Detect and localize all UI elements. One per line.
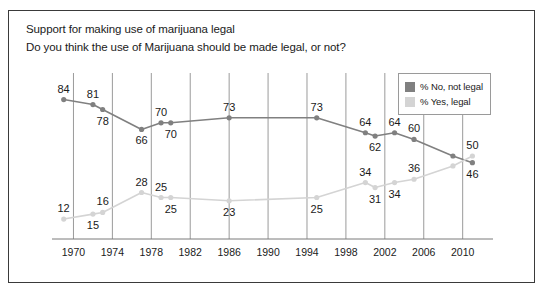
value-label-0-4: 70 [155,106,167,118]
value-label-1-9: 31 [369,193,381,205]
data-point-0-5 [168,120,173,125]
x-tick-label-2006: 2006 [412,246,436,258]
data-point-1-2 [100,210,105,215]
data-point-1-3 [139,190,144,195]
data-point-1-12 [450,163,455,168]
value-label-1-13: 50 [466,139,478,151]
value-label-1-11: 36 [408,162,420,174]
value-label-1-3: 28 [135,176,147,188]
x-tick-label-1986: 1986 [217,246,241,258]
value-label-0-6: 73 [223,101,235,113]
value-label-0-3: 66 [135,134,147,146]
legend-swatch-yes-icon [405,97,415,107]
value-label-0-9: 62 [369,141,381,153]
data-point-0-13 [470,160,475,165]
data-point-1-5 [168,195,173,200]
value-label-0-10: 64 [388,116,400,128]
value-label-1-7: 25 [311,203,323,215]
chart-figure: Support for making use of marijuana lega… [8,10,535,283]
data-point-0-1 [90,102,95,107]
value-label-0-13: 46 [466,168,478,180]
data-point-0-12 [450,153,455,158]
data-point-0-6 [227,115,232,120]
value-label-0-8: 64 [359,116,371,128]
data-point-0-4 [158,120,163,125]
data-point-1-6 [227,198,232,203]
value-label-1-10: 34 [388,188,400,200]
data-point-0-2 [100,107,105,112]
value-label-1-1: 15 [87,219,99,231]
value-label-0-2: 78 [97,115,109,127]
line-chart-plot: 8481786670707373646264604612151628252523… [9,11,536,284]
value-label-1-0: 12 [57,202,69,214]
data-point-1-13 [470,153,475,158]
legend-item-yes: % Yes, legal [405,94,483,109]
x-tick-label-1994: 1994 [295,246,319,258]
x-tick-label-1970: 1970 [62,246,86,258]
legend-label-no: % No, not legal [420,81,483,92]
value-label-1-4: 25 [155,181,167,193]
data-point-1-1 [90,212,95,217]
value-label-1-8: 34 [359,166,371,178]
data-point-1-7 [314,195,319,200]
x-tick-label-1982: 1982 [179,246,203,258]
data-point-0-10 [392,130,397,135]
legend-swatch-no-icon [405,82,415,92]
value-label-0-7: 73 [311,101,323,113]
data-point-1-9 [373,185,378,190]
chart-legend: % No, not legal % Yes, legal [398,73,491,115]
data-point-0-11 [411,137,416,142]
x-tick-label-1978: 1978 [140,246,164,258]
x-tick-label-1974: 1974 [101,246,125,258]
data-point-0-7 [314,115,319,120]
x-tick-label-1998: 1998 [334,246,358,258]
data-point-0-0 [61,97,66,102]
value-label-1-6: 23 [223,206,235,218]
data-point-1-0 [61,216,66,221]
x-tick-label-1990: 1990 [256,246,280,258]
data-point-0-3 [139,127,144,132]
data-point-0-9 [373,133,378,138]
value-label-0-5: 70 [165,128,177,140]
legend-item-no: % No, not legal [405,79,483,94]
value-label-0-1: 81 [87,88,99,100]
data-point-1-11 [411,177,416,182]
value-label-1-2: 16 [97,195,109,207]
data-point-1-4 [158,195,163,200]
value-label-0-0: 84 [57,83,69,95]
data-point-1-8 [363,180,368,185]
value-label-1-5: 25 [165,203,177,215]
legend-label-yes: % Yes, legal [420,96,471,107]
x-tick-label-2002: 2002 [373,246,397,258]
x-tick-label-2010: 2010 [451,246,475,258]
data-point-0-8 [363,130,368,135]
x-tick-labels-group: 1970197419781982198619901994199820022006… [62,246,475,258]
data-point-1-10 [392,180,397,185]
value-label-0-11: 60 [408,122,420,134]
